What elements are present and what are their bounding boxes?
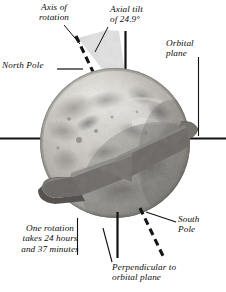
leader-perpendicular (103, 228, 112, 262)
leader-south-pole (146, 212, 176, 222)
label-orbital-plane: Orbital plane (166, 38, 222, 59)
label-south-pole: South Pole (178, 214, 224, 235)
label-axis-of-rotation: Axis of rotation (18, 2, 90, 23)
label-perpendicular-to-orbital-plane: Perpendicular to orbital plane (112, 262, 224, 283)
label-north-pole: North Pole (2, 60, 68, 70)
axial-tilt-diagram: Axis of rotation Axial tilt of 24.9° Nor… (0, 0, 226, 292)
rotation-axis-dashed-south (140, 208, 164, 258)
label-axial-tilt: Axial tilt of 24.9° (110, 4, 180, 25)
label-rotation-period: One rotation takes 24 hours and 37 minut… (4, 223, 96, 254)
leader-axis-of-rotation (64, 25, 80, 44)
